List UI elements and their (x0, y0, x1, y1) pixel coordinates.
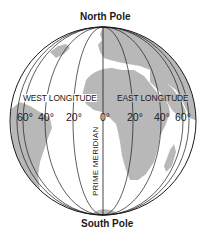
degree-label-0: 0° (100, 112, 110, 123)
degree-label-20e: 20° (127, 112, 143, 123)
north-pole-label: North Pole (80, 12, 131, 22)
degree-label-60w: 60° (17, 112, 33, 123)
south-pole-label: South Pole (81, 219, 133, 229)
prime-meridian-label: PRIME MERIDIAN (92, 127, 100, 196)
degree-label-40w: 40° (38, 112, 54, 123)
east-longitude-label: EAST LONGITUDE (117, 94, 189, 102)
degree-label-40e: 40° (154, 112, 170, 123)
degree-label-20w: 20° (66, 112, 82, 123)
west-longitude-label: WEST LONGITUDE (23, 94, 97, 102)
degree-label-60e: 60° (175, 112, 191, 123)
globe-diagram: North Pole South Pole WEST LONGITUDE EAS… (0, 0, 203, 238)
